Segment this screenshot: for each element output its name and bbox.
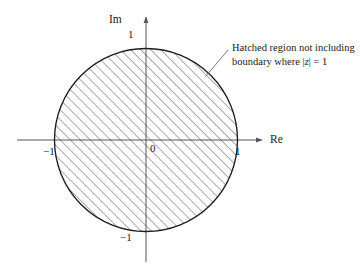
hatched-region-annotation: Hatched region not including boundary wh… (232, 41, 355, 69)
real-axis-label: Re (270, 133, 283, 147)
real-axis-tick-positive-one: 1 (235, 145, 241, 158)
real-axis-tick-negative-one: −1 (43, 145, 55, 158)
imaginary-axis-label: Im (109, 13, 122, 27)
annotation-line-2: boundary where |z| = 1 (232, 55, 355, 69)
imaginary-axis-tick-positive-one: 1 (128, 28, 134, 41)
origin-label: 0 (150, 142, 156, 155)
annotation-boundary-text: boundary where (232, 56, 303, 67)
modulus-equals-one: = 1 (311, 56, 327, 67)
complex-plane-figure: Im 1 −1 Re −1 1 0 Hatched region not inc… (0, 0, 363, 275)
annotation-leader-line (206, 50, 229, 77)
imaginary-axis-tick-negative-one: −1 (120, 231, 132, 244)
annotation-line-1: Hatched region not including (232, 41, 355, 55)
unit-disk-hatched-region (55, 49, 238, 232)
